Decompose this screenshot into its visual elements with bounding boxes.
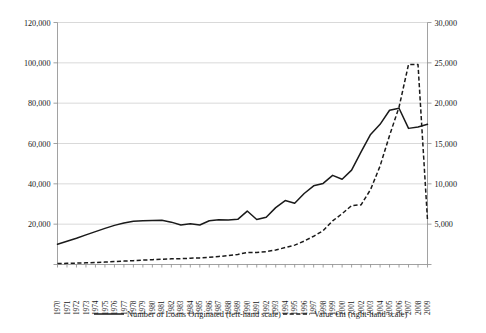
left-axis-tick-label: 20,000 (28, 220, 51, 229)
x-axis-tick-label: 1971 (63, 300, 72, 315)
x-axis-tick-label: 1975 (101, 300, 110, 315)
x-axis-tick-label: 1995 (290, 300, 299, 315)
chart-container: 20,00040,00060,00080,000100,000120,000 5… (0, 0, 486, 333)
left-axis-tick-label: 40,000 (28, 180, 51, 189)
x-axis-tick-label: 1996 (300, 300, 309, 315)
legend-label-value-eur: Value €m (right-hand scale) (314, 310, 407, 319)
x-axis-tick-label: 1976 (110, 300, 119, 315)
right-axis-tick-label: 10,000 (435, 180, 458, 189)
left-axis-tick-label: 80,000 (28, 99, 51, 108)
chart-background (0, 0, 486, 333)
x-axis-tick-label: 1970 (53, 300, 62, 315)
x-axis-tick-label: 1973 (82, 300, 91, 315)
left-axis-tick-label: 120,000 (24, 19, 51, 28)
right-axis-tick-label: 15,000 (435, 140, 458, 149)
right-axis-tick-label: 25,000 (435, 59, 458, 68)
line-chart: 20,00040,00060,00080,000100,000120,000 5… (0, 0, 486, 333)
right-axis-tick-label: 30,000 (435, 19, 458, 28)
left-axis-tick-label: 100,000 (24, 59, 51, 68)
left-axis-tick-label: 60,000 (28, 140, 51, 149)
x-axis-tick-label: 2008 (414, 300, 423, 315)
right-axis-tick-label: 5,000 (435, 220, 453, 229)
x-axis-tick-label: 1974 (91, 300, 100, 315)
x-axis-tick-label: 1972 (72, 300, 81, 315)
x-axis-tick-label: 2009 (423, 300, 432, 315)
right-axis-tick-label: 20,000 (435, 99, 458, 108)
x-axis-tick-label: 1994 (281, 300, 290, 315)
chart-legend: Number of Loans Originated (left-hand sc… (94, 310, 407, 319)
legend-label-number-of-loans: Number of Loans Originated (left-hand sc… (127, 310, 281, 319)
